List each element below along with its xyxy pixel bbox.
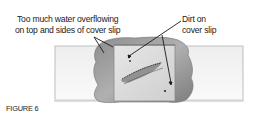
figure-caption: FIGURE 6: [6, 104, 38, 113]
callout-line: Too much water overflowing: [15, 14, 120, 25]
callout-line: Dirt on: [182, 14, 216, 25]
callout-line: cover slip: [182, 25, 216, 36]
callout-dirt: Dirt on cover slip: [182, 14, 216, 35]
callout-excess-water: Too much water overflowing on top and si…: [15, 14, 120, 35]
callout-line: on top and sides of cover slip: [15, 25, 120, 36]
